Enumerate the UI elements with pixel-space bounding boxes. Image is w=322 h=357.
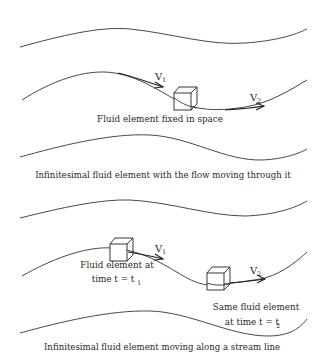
v1-subscript: 1: [162, 76, 166, 84]
fluid-element-diagram: V 1 V 2 Fluid element fixed in space Inf…: [0, 0, 322, 357]
streamline-top: [20, 28, 307, 47]
cube-icon-t1: [110, 238, 133, 261]
element1-label-line2: time t = t: [92, 274, 135, 284]
element1-label-line1: Fluid element at: [80, 260, 154, 270]
v2-subscript: 2: [257, 97, 261, 105]
panel-moving-element: V 1 V 2 Fluid element at time t = t 1 Sa…: [20, 200, 307, 352]
caption-moving: Infinitesimal fluid element moving along…: [44, 342, 280, 352]
element2-label-subscript: 2: [276, 322, 280, 330]
element1-label-subscript: 1: [137, 279, 141, 287]
streamline-top-2: [20, 200, 307, 218]
v2-subscript-2: 2: [257, 270, 261, 278]
velocity-arrow-v1: V 1: [118, 71, 166, 88]
velocity-arrow-v2-t2: V 2: [230, 265, 265, 283]
caption-fixed: Infinitesimal fluid element with the flo…: [35, 170, 291, 180]
element2-label-line2: at time t = t: [225, 317, 280, 327]
panel-fixed-element: V 1 V 2 Fluid element fixed in space Inf…: [20, 28, 307, 180]
element-label-fixed: Fluid element fixed in space: [97, 114, 223, 124]
v1-subscript-2: 1: [162, 248, 166, 256]
streamline-bottom: [20, 135, 307, 160]
cube-icon-t2: [207, 267, 230, 290]
element2-label-line1: Same fluid element: [213, 302, 300, 312]
